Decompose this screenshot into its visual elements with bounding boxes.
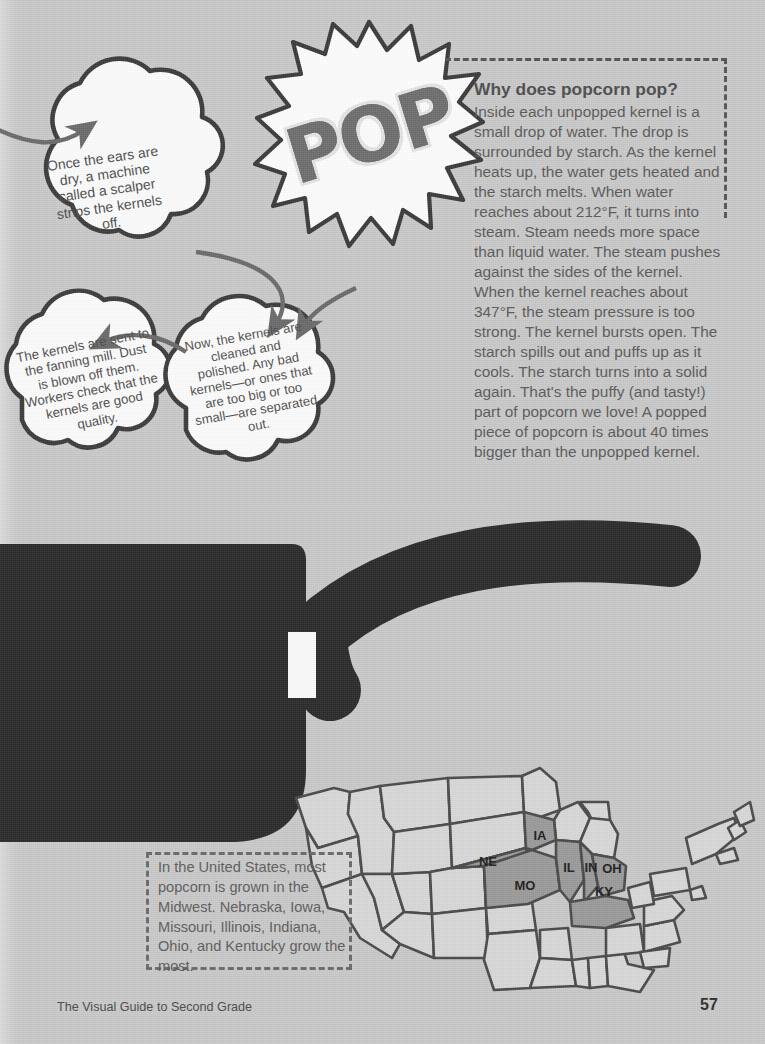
bubble-scalper-label: Once the ears are dry, a machine called … <box>41 142 173 239</box>
map-label-ky: KY <box>595 884 613 899</box>
state-sc <box>640 948 670 968</box>
state-pa <box>650 868 690 896</box>
state-nj-md <box>690 886 706 900</box>
map-label-oh: OH <box>602 861 622 876</box>
state-co <box>430 866 486 914</box>
footer-book-title: The Visual Guide to Second Grade <box>57 1000 252 1014</box>
map-label-in: IN <box>585 860 598 875</box>
state-mt <box>380 778 450 832</box>
state-highlight-ky <box>570 896 634 928</box>
why-popcorn-pops-text: Why does popcorn pop? Inside each unpopp… <box>474 78 727 462</box>
page-canvas: Once the ears are dry, a machine called … <box>0 0 765 1044</box>
bubble-cleaned-polished-label: Now, the kernels are cleaned and polishe… <box>180 318 322 444</box>
footer-page-number: 57 <box>700 996 718 1014</box>
map-label-ne: NE <box>479 854 497 869</box>
why-popcorn-pops-title: Why does popcorn pop? <box>474 78 727 101</box>
map-label-mo: MO <box>515 878 536 893</box>
state-wv <box>628 882 654 908</box>
us-map-popcorn-states: NE IA MO IL IN OH KY <box>288 762 758 994</box>
map-label-ia: IA <box>534 828 548 843</box>
why-popcorn-pops-body: Inside each unpopped kernel is a small d… <box>474 103 720 460</box>
state-wy <box>392 824 452 874</box>
map-label-il: IL <box>563 860 575 875</box>
state-al <box>588 956 608 988</box>
state-tn <box>606 924 644 956</box>
state-nm <box>432 908 488 958</box>
map-caption-text: In the United States, most popcorn is gr… <box>158 858 354 977</box>
state-ar <box>540 928 572 960</box>
